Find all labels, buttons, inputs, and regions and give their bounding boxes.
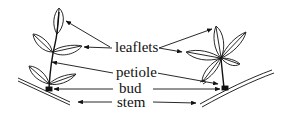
pinnate-leaf bbox=[18, 8, 82, 105]
compound-leaf-diagram: leaflets petiole bud stem bbox=[0, 0, 289, 115]
label-leaflets: leaflets bbox=[114, 40, 159, 55]
palmate-leaf bbox=[186, 26, 274, 107]
label-petiole: petiole bbox=[115, 65, 158, 80]
label-stem: stem bbox=[116, 95, 146, 110]
